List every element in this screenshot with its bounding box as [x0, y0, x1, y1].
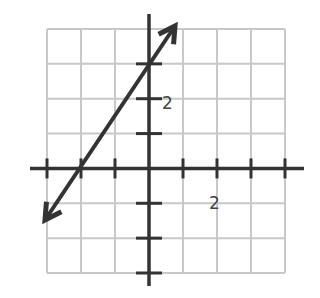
- line-path: [45, 26, 175, 220]
- x-tick-label: 2: [209, 193, 220, 213]
- axes: [30, 14, 304, 286]
- grid: [47, 29, 285, 273]
- coordinate-plane: 2 2: [0, 0, 320, 298]
- graphed-line: [45, 26, 175, 220]
- y-tick-label: 2: [162, 93, 173, 113]
